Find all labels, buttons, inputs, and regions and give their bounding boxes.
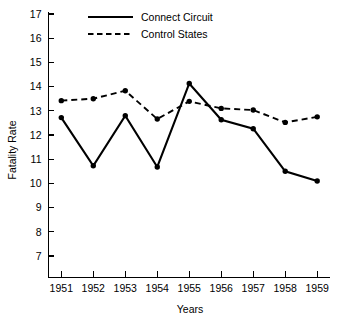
data-point-marker bbox=[91, 96, 96, 101]
y-tick-label: 10 bbox=[30, 177, 42, 189]
legend: Connect Circuit Control States bbox=[88, 11, 213, 40]
x-tick-label: 1959 bbox=[306, 282, 330, 294]
data-point-marker bbox=[59, 115, 64, 120]
x-tick-label: 1953 bbox=[114, 282, 138, 294]
y-tick-label: 9 bbox=[36, 201, 42, 213]
y-tick-label: 7 bbox=[36, 250, 42, 262]
data-point-marker bbox=[123, 88, 128, 93]
y-tick-label: 16 bbox=[30, 32, 42, 44]
data-point-marker bbox=[187, 99, 192, 104]
data-point-marker bbox=[283, 120, 288, 125]
data-point-marker bbox=[219, 117, 224, 122]
x-tick-label: 1951 bbox=[50, 282, 74, 294]
data-point-marker bbox=[219, 106, 224, 111]
data-point-marker bbox=[155, 164, 160, 169]
y-tick-group: 7891011121314151617 bbox=[30, 8, 54, 262]
x-axis: 195119521953195419551956195719581959 bbox=[49, 271, 331, 294]
data-point-marker bbox=[283, 169, 288, 174]
y-tick-label: 12 bbox=[30, 129, 42, 141]
x-tick-label: 1956 bbox=[210, 282, 234, 294]
data-point-marker bbox=[155, 116, 160, 121]
data-point-marker bbox=[251, 126, 256, 131]
data-point-marker bbox=[315, 114, 320, 119]
legend-label-connect-circuit: Connect Circuit bbox=[141, 11, 213, 23]
chart-canvas: 7891011121314151617 19511952195319541955… bbox=[0, 0, 340, 320]
data-point-marker bbox=[315, 178, 320, 183]
y-tick-label: 14 bbox=[30, 80, 42, 92]
fatality-rate-line-chart: 7891011121314151617 19511952195319541955… bbox=[0, 0, 340, 320]
data-point-marker bbox=[59, 98, 64, 103]
y-tick-label: 13 bbox=[30, 105, 42, 117]
x-tick-label: 1952 bbox=[82, 282, 106, 294]
y-tick-label: 17 bbox=[30, 8, 42, 20]
x-tick-label: 1957 bbox=[242, 282, 266, 294]
y-axis: 7891011121314151617 bbox=[30, 8, 54, 278]
x-axis-title: Years bbox=[177, 303, 203, 315]
x-tick-label: 1958 bbox=[274, 282, 298, 294]
data-point-marker bbox=[123, 113, 128, 118]
y-axis-title: Fatality Rate bbox=[6, 120, 18, 179]
y-tick-label: 15 bbox=[30, 56, 42, 68]
legend-label-control-states: Control States bbox=[141, 28, 208, 40]
data-point-marker bbox=[251, 107, 256, 112]
x-tick-label: 1955 bbox=[178, 282, 202, 294]
series-line-control-states bbox=[61, 91, 317, 123]
y-tick-label: 11 bbox=[31, 153, 42, 165]
y-tick-label: 8 bbox=[36, 226, 42, 238]
series-group bbox=[59, 81, 320, 184]
data-point-marker bbox=[187, 81, 192, 86]
x-tick-group: 195119521953195419551956195719581959 bbox=[50, 271, 329, 294]
x-tick-label: 1954 bbox=[146, 282, 170, 294]
series-line-connect-circuit bbox=[61, 83, 317, 181]
data-point-marker bbox=[91, 163, 96, 168]
